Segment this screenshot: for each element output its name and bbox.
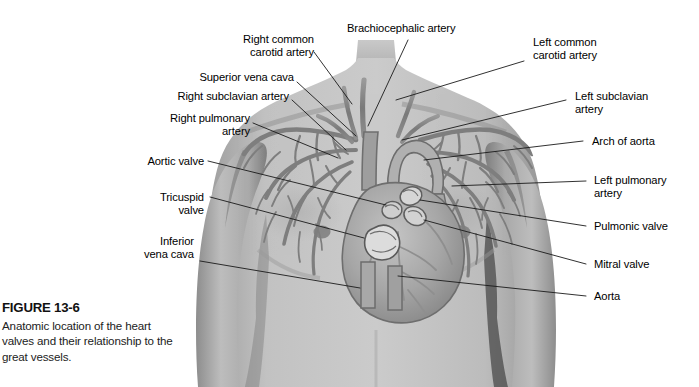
- figure-page: Right common carotid artery Superior ven…: [0, 0, 699, 387]
- label-right-common-carotid-artery: Right common carotid artery: [180, 33, 314, 58]
- brachiocephalic-artery-vessel: [363, 80, 365, 136]
- label-superior-vena-cava: Superior vena cava: [150, 71, 294, 84]
- label-brachiocephalic-artery: Brachiocephalic artery: [347, 22, 487, 35]
- label-arch-of-aorta: Arch of aorta: [592, 135, 696, 148]
- descending-aorta-vessel: [388, 266, 402, 310]
- label-inferior-vena-cava: Inferior vena cava: [116, 235, 194, 260]
- label-right-pulmonary-artery: Right pulmonary artery: [140, 112, 250, 137]
- figure-caption-text: Anatomic location of the heart valves an…: [2, 318, 182, 364]
- label-tricuspid-valve: Tricuspid valve: [126, 191, 204, 216]
- label-left-pulmonary-artery: Left pulmonary artery: [594, 174, 696, 199]
- label-mitral-valve: Mitral valve: [594, 258, 694, 271]
- figure-number: FIGURE 13-6: [2, 300, 182, 315]
- superior-vena-cava-vessel: [362, 132, 378, 190]
- label-aortic-valve: Aortic valve: [120, 155, 204, 168]
- tricuspid-valve-shape: [365, 225, 400, 260]
- label-left-common-carotid-artery: Left common carotid artery: [533, 36, 653, 61]
- figure-caption: FIGURE 13-6 Anatomic location of the hea…: [2, 300, 182, 364]
- inferior-vena-cava-vessel: [361, 262, 375, 308]
- label-aorta: Aorta: [594, 290, 654, 303]
- label-left-subclavian-artery: Left subclavian artery: [575, 90, 695, 115]
- label-right-subclavian-artery: Right subclavian artery: [130, 90, 289, 103]
- label-pulmonic-valve: Pulmonic valve: [594, 220, 698, 233]
